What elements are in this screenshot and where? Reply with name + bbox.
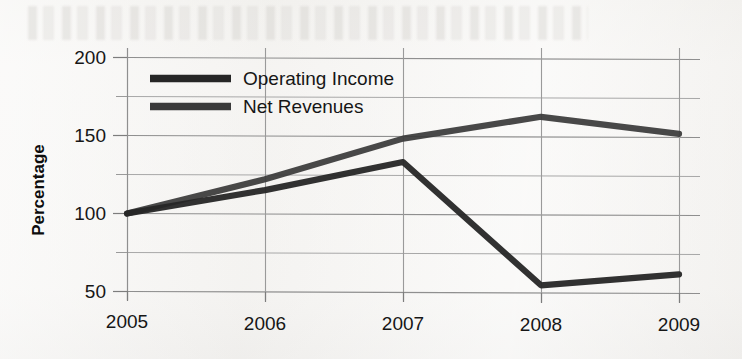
y-tick-label-50: 50 xyxy=(85,281,106,302)
y-axis-title: Percentage xyxy=(29,144,48,236)
line-chart: 200 150 100 50 2005 2006 2007 2008 2009 … xyxy=(0,0,742,359)
legend-label-net-revenues: Net Revenues xyxy=(243,96,363,117)
y-tick-label-150: 150 xyxy=(74,125,106,146)
gridline-y-200 xyxy=(127,58,700,60)
y-tick-label-100: 100 xyxy=(74,203,106,224)
x-tick-label-2005: 2005 xyxy=(106,311,148,332)
legend-label-operating-income: Operating Income xyxy=(243,68,394,89)
chart-svg: 200 150 100 50 2005 2006 2007 2008 2009 … xyxy=(0,0,742,359)
x-tick-label-2006: 2006 xyxy=(244,313,286,334)
gridline-y-100 xyxy=(127,214,700,216)
gridline-y-175-minor xyxy=(127,97,700,99)
gridline-y-75-minor xyxy=(127,253,700,255)
x-tick-label-2008: 2008 xyxy=(520,314,562,335)
x-tick-label-2009: 2009 xyxy=(658,314,700,335)
y-tick-label-200: 200 xyxy=(74,47,106,68)
chart-legend: Operating Income Net Revenues xyxy=(150,68,394,117)
x-tick-label-2007: 2007 xyxy=(382,313,424,334)
y-tick-marks xyxy=(113,58,127,292)
gridline-y-50-baseline xyxy=(127,292,700,294)
